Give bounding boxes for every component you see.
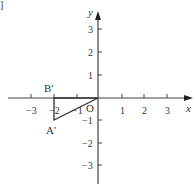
point-b-prime-label: B′ <box>44 82 54 94</box>
x-axis-label: x <box>185 102 191 114</box>
x-tick-label: 2 <box>142 105 147 116</box>
y-tick-label: 2 <box>88 47 93 58</box>
y-tick-label: −2 <box>82 138 93 149</box>
point-a-prime-label: A′ <box>46 124 56 136</box>
x-tick-label: −3 <box>26 105 37 116</box>
y-axis-label: y <box>87 6 93 18</box>
coordinate-plane: ] −3 −2 −1 1 2 3 3 2 1 −1 −2 −3 x y O <box>0 0 196 184</box>
corner-mark: ] <box>0 0 3 10</box>
x-axis-arrow-icon <box>184 95 193 101</box>
x-axis <box>8 94 193 101</box>
y-axis-arrow-icon <box>95 11 101 20</box>
x-tick-label: 3 <box>165 105 170 116</box>
y-tick-label: 1 <box>88 70 93 81</box>
y-tick-label: −3 <box>82 160 93 171</box>
y-tick-label: −1 <box>82 115 93 126</box>
x-tick-label: 1 <box>120 105 125 116</box>
y-tick-label: 3 <box>88 24 93 35</box>
